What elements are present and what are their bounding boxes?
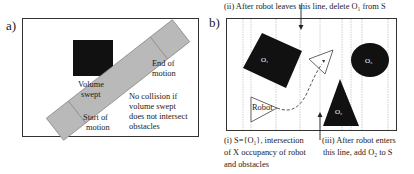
obstacle-o3-label: O₃: [365, 56, 373, 66]
arrow-iii-head: [318, 112, 323, 117]
label-start-2: motion: [86, 123, 110, 133]
swept-volume: [46, 20, 189, 141]
arrow-ii-head: [299, 25, 304, 30]
obstacle-o2: [323, 79, 359, 126]
obstacle-o2-label: O₂: [335, 107, 343, 117]
caption-iii-2: this line, add O₂ to S: [323, 148, 392, 158]
label-nocollision-1: No collision if: [129, 92, 177, 102]
label-nocollision-4: obstacles: [129, 122, 160, 132]
label-nocollision-3: does not intersect: [129, 112, 188, 122]
panel-b-label: b): [209, 15, 220, 31]
robot-label: Robot: [252, 103, 272, 113]
obstacle-o1: [243, 33, 302, 88]
label-nocollision-2: volume swept: [129, 102, 176, 112]
label-end-1: End of: [152, 59, 175, 69]
caption-i-3: and obstacles: [224, 160, 269, 170]
label-volume-swept-1: Volume: [78, 80, 104, 90]
label-start-1: Start of: [83, 113, 108, 123]
caption-i-1: (i) S={O₁}, intersection: [224, 136, 304, 146]
caption-i-2: of X occupancy of robot: [224, 148, 306, 158]
caption-ii: (ii) After robot leaves this line, delet…: [224, 2, 386, 12]
label-end-2: motion: [152, 69, 176, 79]
robot-end: [309, 50, 333, 74]
label-volume-swept-2: swept: [81, 90, 101, 100]
caption-iii-1: (iii) After robot enters: [322, 136, 396, 146]
obstacle-o1-label: O₁: [261, 55, 269, 65]
